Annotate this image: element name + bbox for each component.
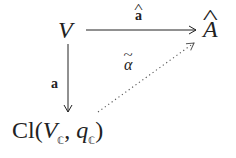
node-V-label: V [58,17,73,43]
node-cl-suffix: ) [95,117,103,143]
node-cl-prefix: Cl( [12,117,43,143]
label-alpha-tilde-accent: ~ [123,48,134,61]
label-alpha-tilde: ~ α [124,57,132,73]
label-a-hat: ^ a [135,9,142,23]
node-cl-q: q [76,117,88,143]
label-a: a [51,77,58,91]
node-A-hat: ^ A [203,17,218,41]
label-a-hat-accent: ^ [133,2,144,14]
arrow-alpha-tilde [98,43,194,112]
node-cl-V: V [43,117,58,143]
node-clifford-algebra: Cl(Vℂ, qℂ) [12,118,103,146]
node-cl-comma: , [64,117,76,143]
node-A-hat-accent: ^ [199,7,222,27]
node-V: V [58,18,73,42]
